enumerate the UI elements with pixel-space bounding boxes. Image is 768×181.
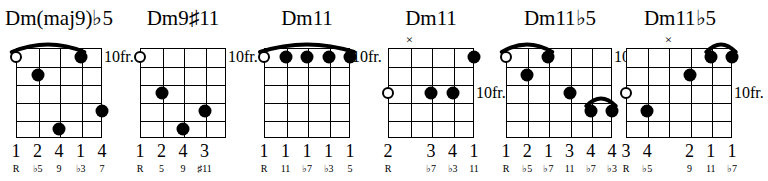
finger-dot <box>279 51 292 64</box>
scale-degree: ♯11 <box>194 162 216 176</box>
finger-dot <box>53 123 66 136</box>
fret-line <box>265 103 349 104</box>
fret-line <box>141 85 225 86</box>
mute-x-icon: × <box>404 34 416 46</box>
finger-number: 4 <box>51 141 67 161</box>
chord-diagram: Dm9♯1110fr.1243R59♯11 <box>124 0 268 181</box>
finger-number: 3 <box>562 141 578 161</box>
string-line <box>528 49 529 137</box>
scale-degree: ♭7 <box>721 162 743 176</box>
fret-line <box>265 67 349 68</box>
scale-degree: 5 <box>339 162 361 176</box>
finger-number: 4 <box>639 141 655 161</box>
scale-degree: R <box>5 162 27 176</box>
finger-number: 4 <box>445 141 461 161</box>
scale-degree: R <box>377 162 399 176</box>
finger-number: 1 <box>466 141 482 161</box>
finger-dot <box>446 87 459 100</box>
fret-line <box>141 67 225 68</box>
scale-degree: 5 <box>151 162 173 176</box>
scale-degree: R <box>253 162 275 176</box>
string-line <box>206 49 207 137</box>
scale-degree: 7 <box>91 162 113 176</box>
fret-line <box>389 103 473 104</box>
fret-line <box>17 103 101 104</box>
scale-degree: 9 <box>172 162 194 176</box>
finger-dot <box>96 105 109 118</box>
scale-degree: 9 <box>679 162 701 176</box>
finger-dot <box>198 105 211 118</box>
string-marker-row <box>124 34 268 46</box>
chord-diagram: Dm(maj9)♭510fr.12414R♭59♭37 <box>0 0 144 181</box>
fingering-row: 1243 <box>124 141 246 161</box>
open-string-circle <box>500 51 512 63</box>
scale-degree: ♭5 <box>27 162 49 176</box>
finger-dot <box>726 51 739 64</box>
string-line <box>691 49 692 137</box>
fingering-row: 2341 <box>372 141 494 161</box>
fret-position-label: 10fr. <box>734 85 764 101</box>
scale-degree: ♭7 <box>580 162 602 176</box>
open-string-circle <box>10 51 22 63</box>
string-line <box>648 49 649 137</box>
finger-number: 1 <box>278 141 294 161</box>
finger-dot <box>704 51 717 64</box>
finger-number: 1 <box>703 141 719 161</box>
chord-name: Dm11♭5 <box>492 6 628 30</box>
chord-name: Dm(maj9)♭5 <box>0 6 118 30</box>
scale-degree: ♭5 <box>636 162 658 176</box>
fret-line <box>627 103 731 104</box>
string-line <box>39 49 40 137</box>
open-string-circle <box>620 87 632 99</box>
finger-number: 3 <box>423 141 439 161</box>
scale-degree: R <box>495 162 517 176</box>
finger-number: 4 <box>175 141 191 161</box>
fret-line <box>17 85 101 86</box>
finger-number: 3 <box>197 141 213 161</box>
open-string-circle <box>134 51 146 63</box>
string-line <box>592 49 593 137</box>
scale-degree-row: R♭5♭711♭7♭3 <box>492 162 632 176</box>
finger-number: 2 <box>380 141 396 161</box>
finger-dot <box>155 87 168 100</box>
finger-number: 1 <box>132 141 148 161</box>
fret-line <box>141 103 225 104</box>
scale-degree: ♭7 <box>420 162 442 176</box>
open-string-circle <box>382 87 394 99</box>
mute-x-icon: × <box>662 34 674 46</box>
open-string-circle <box>258 51 270 63</box>
fret-line <box>627 121 731 122</box>
finger-number: 2 <box>30 141 46 161</box>
scale-degree-row: R11♭7♭35 <box>248 162 370 176</box>
fret-line <box>507 85 611 86</box>
finger-dot <box>322 51 335 64</box>
scale-degree: 11 <box>559 162 581 176</box>
scale-degree: 11 <box>275 162 297 176</box>
finger-dot <box>74 51 87 64</box>
finger-dot <box>584 105 597 118</box>
scale-degree-row: R♭7♭311 <box>372 162 494 176</box>
fret-line <box>389 67 473 68</box>
fingering-row: 34211 <box>612 141 752 161</box>
fret-line <box>389 121 473 122</box>
string-line <box>411 49 412 137</box>
finger-number: 2 <box>682 141 698 161</box>
finger-number: 1 <box>73 141 89 161</box>
fret-line <box>507 67 611 68</box>
scale-degree: 11 <box>463 162 485 176</box>
scale-degree: ♭7 <box>296 162 318 176</box>
finger-dot <box>425 87 438 100</box>
chord-name: Dm11♭5 <box>612 6 748 30</box>
chord-name: Dm11 <box>372 6 490 30</box>
fret-line <box>507 121 611 122</box>
fingering-row: 11111 <box>248 141 370 161</box>
finger-number: 1 <box>321 141 337 161</box>
finger-number: 4 <box>94 141 110 161</box>
finger-dot <box>177 123 190 136</box>
scale-degree: 11 <box>700 162 722 176</box>
scale-degree-row: R♭5911♭7 <box>612 162 752 176</box>
finger-dot <box>542 51 555 64</box>
fretboard-grid <box>506 48 612 138</box>
fret-line <box>265 85 349 86</box>
fingering-row: 12414 <box>0 141 122 161</box>
